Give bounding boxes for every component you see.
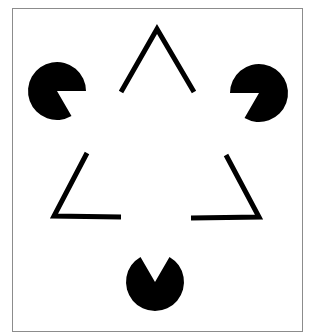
kanizsa-figure (0, 0, 314, 335)
